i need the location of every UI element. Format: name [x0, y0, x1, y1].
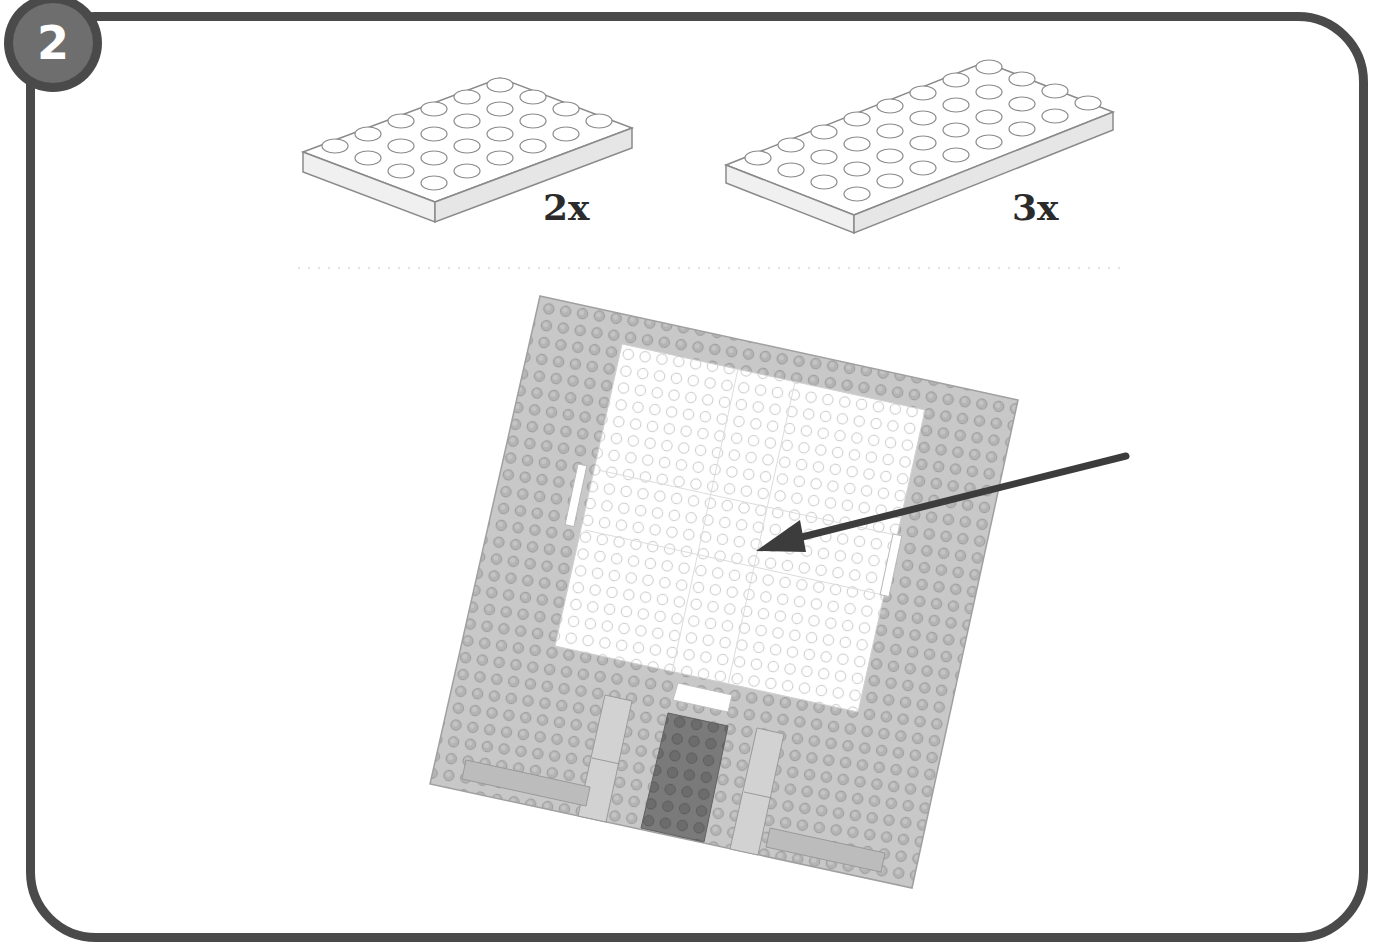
assembly-white-plates	[555, 344, 925, 712]
quantity-label-part-2: 3x	[1012, 186, 1059, 228]
quantity-label-part-1: 2x	[543, 186, 590, 228]
